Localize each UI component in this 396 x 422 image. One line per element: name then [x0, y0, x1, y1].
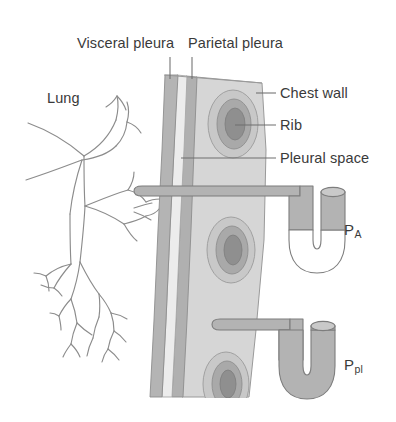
alveolar-tube-right-limb: [321, 192, 345, 230]
alveolar-pressure-subscript: A: [355, 228, 362, 240]
pleural-pressure-diagram: [0, 0, 396, 422]
rib-middle: [207, 217, 255, 283]
alveolar-tube-horizontal-arm: [134, 186, 300, 196]
pleural-pressure-subscript: pl: [355, 363, 363, 375]
rib-upper: [208, 90, 258, 158]
chest-wall-assembly: [150, 75, 266, 416]
rib-lower: [203, 352, 249, 416]
pleural-tube-horizontal-arm: [212, 319, 290, 330]
label-chest-wall: Chest wall: [280, 86, 348, 101]
alveolar-tube-u-bend-empty: [289, 230, 345, 273]
lung-bronchial-tree: [26, 96, 160, 362]
pleural-tube-opening: [311, 321, 335, 330]
label-parietal-pleura: Parietal pleura: [188, 36, 283, 51]
alveolar-pressure-symbol: P: [344, 221, 354, 238]
alveolar-tube-opening: [321, 187, 345, 196]
label-visceral-pleura: Visceral pleura: [77, 36, 174, 51]
label-alveolar-pressure: PA: [344, 222, 361, 238]
pleural-pressure-symbol: P: [344, 356, 354, 373]
label-pleural-pressure: Ppl: [344, 357, 362, 373]
pleural-tube-u-bend: [279, 330, 335, 399]
label-lung: Lung: [47, 91, 80, 106]
label-rib: Rib: [280, 118, 302, 133]
label-pleural-space: Pleural space: [280, 151, 369, 166]
